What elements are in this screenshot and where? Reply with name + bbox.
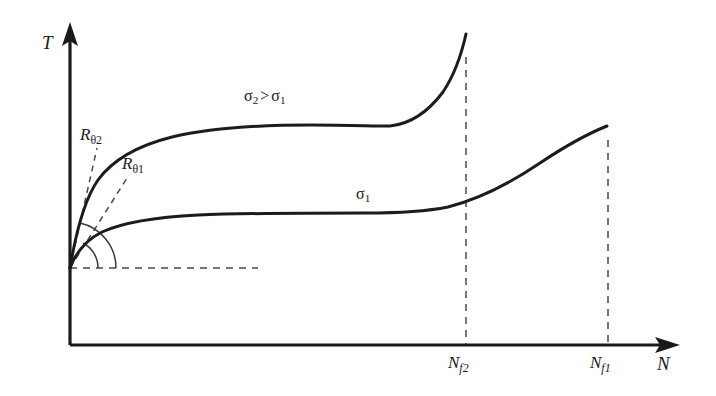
sigma1-symbol: σ (356, 185, 365, 202)
nf2-tick-label: Nf2 (448, 354, 469, 374)
y-axis-label: T (42, 33, 53, 52)
nf1-base: N (590, 353, 601, 372)
sigma1-subscript-compare: 1 (280, 94, 286, 106)
r-theta2-label: Rθ2 (80, 126, 102, 146)
r-theta1-angle-arc (83, 243, 98, 268)
x-axis-label: N (657, 354, 670, 373)
nf1-tick-label: Nf1 (590, 354, 611, 374)
nf1-subscript: f1 (601, 361, 610, 375)
r-theta1-subscript: θ1 (132, 162, 144, 176)
r-theta1-base: R (122, 154, 132, 173)
r-theta2-subscript: θ2 (90, 133, 102, 147)
sigma1-subscript: 1 (365, 192, 371, 204)
sigma1-symbol-compare: σ (271, 87, 280, 104)
creep-fatigue-schematic-figure: T N σ2>σ1 σ1 Rθ2 Rθ1 Nf2 Nf1 (0, 0, 716, 396)
r-theta1-label: Rθ1 (122, 155, 144, 175)
reference-guides (70, 57, 608, 344)
lower-curve-stress-label: σ1 (356, 186, 370, 205)
upper-curve-stress-label: σ2>σ1 (244, 88, 285, 107)
curve-group (70, 34, 607, 268)
nf2-subscript: f2 (459, 361, 468, 375)
lower-stress-curve (70, 126, 607, 268)
r-theta2-base: R (80, 125, 90, 144)
greater-than-operator: > (258, 87, 271, 104)
upper-stress-curve (70, 34, 466, 268)
nf2-base: N (448, 353, 459, 372)
sigma2-symbol: σ (244, 87, 253, 104)
axes-group (62, 22, 680, 353)
